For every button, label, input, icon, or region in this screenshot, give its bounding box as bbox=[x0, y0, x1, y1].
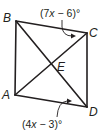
segment-bc bbox=[16, 21, 87, 33]
angle-pointer-bottom-icon bbox=[57, 99, 72, 118]
angle-label-top: (7x − 6)° bbox=[40, 7, 80, 19]
point-label-e: E bbox=[57, 60, 66, 74]
point-label-b: B bbox=[3, 11, 11, 25]
diagonal-bd bbox=[16, 21, 87, 107]
segment-ab bbox=[15, 21, 16, 95]
point-label-d: D bbox=[89, 105, 98, 119]
segment-da bbox=[15, 95, 87, 107]
point-label-c: C bbox=[89, 26, 98, 40]
angle-label-bottom: (4x − 3)° bbox=[22, 118, 62, 130]
point-label-a: A bbox=[1, 88, 10, 102]
quadrilateral-diagram: B C E A D (7x − 6)° (4x − 3)° bbox=[0, 0, 105, 134]
